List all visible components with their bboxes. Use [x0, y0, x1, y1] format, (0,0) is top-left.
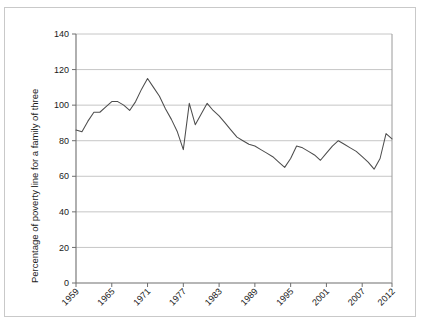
x-axis-tick-label: 1977	[167, 286, 188, 307]
x-axis-tick-label: 1983	[203, 286, 224, 307]
plot-area-background	[76, 34, 392, 283]
y-axis-tick-label: 0	[64, 278, 69, 288]
x-axis-tick-label: 1965	[95, 286, 116, 307]
x-axis-tick-label: 1995	[274, 286, 295, 307]
y-axis-tick-label: 140	[54, 29, 69, 39]
y-axis-tick-labels: 020406080100120140	[54, 29, 69, 288]
y-axis-tick-label: 20	[59, 243, 69, 253]
y-axis-tick-label: 80	[59, 136, 69, 146]
x-axis-tick-labels: 1959196519711977198319891995200120072012	[60, 286, 397, 307]
x-axis-tick-label: 2012	[376, 286, 397, 307]
x-axis-tick-label: 2007	[346, 286, 367, 307]
y-axis-tick-label: 100	[54, 100, 69, 110]
y-axis-title: Percentage of poverty line for a family …	[29, 89, 40, 283]
line-chart: 020406080100120140 195919651971197719831…	[0, 0, 423, 325]
x-axis-tick-label: 1989	[239, 286, 260, 307]
x-axis-tick-label: 1971	[131, 286, 152, 307]
y-axis-tick-label: 60	[59, 171, 69, 181]
x-axis-ticks	[76, 283, 392, 287]
y-axis-tick-label: 120	[54, 65, 69, 75]
y-axis-tick-label: 40	[59, 207, 69, 217]
chart-figure: 020406080100120140 195919651971197719831…	[0, 0, 423, 325]
x-axis-tick-label: 2001	[310, 286, 331, 307]
x-axis-tick-label: 1959	[60, 286, 81, 307]
y-axis-ticks	[72, 34, 76, 283]
